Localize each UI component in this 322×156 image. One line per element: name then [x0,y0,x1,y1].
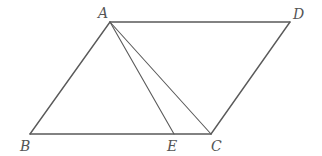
segment-ae [110,22,174,134]
segment-ba [30,22,110,134]
point-label-e: E [167,139,177,153]
segment-dc [211,22,290,134]
parallelogram-figure [0,0,322,156]
vertex-label-c: C [211,139,222,153]
vertex-label-d: D [293,7,304,21]
vertex-label-a: A [98,6,108,20]
segment-ac [110,22,211,134]
vertex-label-b: B [20,139,30,153]
geometry-diagram: A D B E C [0,0,322,156]
